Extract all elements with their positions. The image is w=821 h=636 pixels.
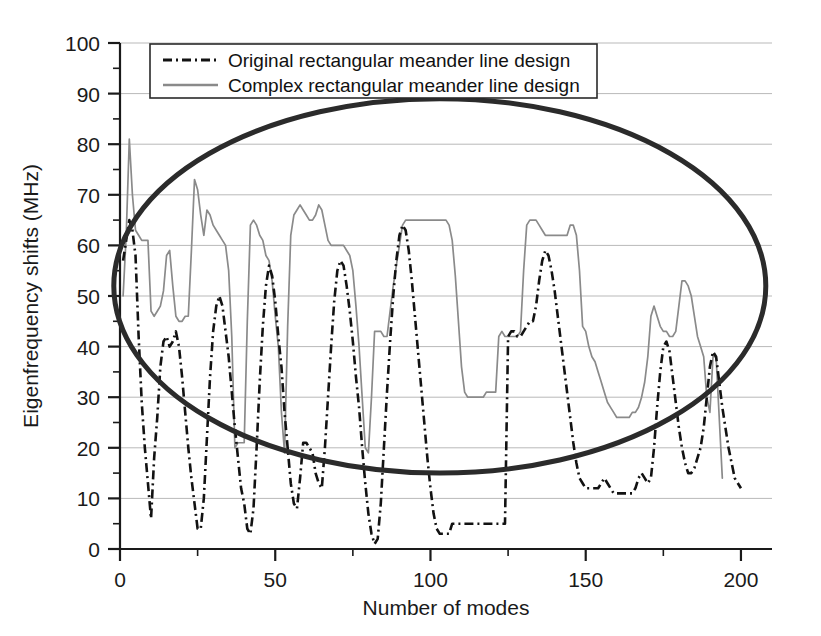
x-axis	[120, 549, 772, 561]
y-tick-label: 0	[88, 538, 100, 561]
series-complex-rectangular	[123, 139, 722, 478]
x-tick-label: 200	[723, 568, 758, 591]
y-tick-label: 40	[77, 336, 100, 359]
y-tick-label: 10	[77, 487, 100, 510]
series-original-rectangular	[123, 220, 741, 544]
x-tick-label: 0	[114, 568, 126, 591]
y-axis-title: Eigenfrequency shifts (MHz)	[19, 164, 42, 428]
legend: Original rectangular meander line design…	[150, 44, 597, 98]
y-tick-label: 90	[77, 83, 100, 106]
x-tick-labels: 050100150200	[114, 568, 758, 591]
chart-figure: 0102030405060708090100 050100150200 Orig…	[0, 0, 821, 636]
gridlines	[120, 43, 772, 498]
y-tick-label: 80	[77, 133, 100, 156]
y-tick-label: 20	[77, 437, 100, 460]
legend-label-original: Original rectangular meander line design	[228, 50, 570, 71]
y-tick-label: 50	[77, 285, 100, 308]
y-tick-label: 30	[77, 386, 100, 409]
y-tick-labels: 0102030405060708090100	[65, 32, 100, 561]
x-tick-label: 150	[568, 568, 603, 591]
x-tick-label: 50	[264, 568, 287, 591]
x-tick-label: 100	[413, 568, 448, 591]
x-axis-title: Number of modes	[363, 596, 530, 619]
y-tick-label: 100	[65, 32, 100, 55]
chart-canvas: 0102030405060708090100 050100150200 Orig…	[0, 0, 821, 636]
y-tick-label: 70	[77, 184, 100, 207]
y-tick-label: 60	[77, 234, 100, 257]
legend-label-complex: Complex rectangular meander line design	[228, 75, 580, 96]
highlight-ellipse	[114, 99, 766, 473]
